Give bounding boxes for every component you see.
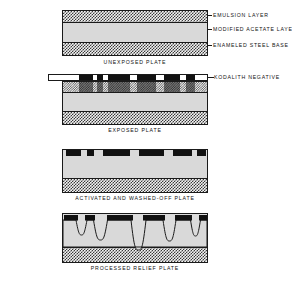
caption-unexposed-plate: UNEXPOSED PLATE bbox=[62, 59, 208, 65]
kodalith-negative-strip bbox=[48, 74, 208, 81]
panel-relief-plate: PROCESSED RELIEF PLATE bbox=[0, 205, 292, 284]
label-emulsion-layer: EMULSION LAYER bbox=[213, 12, 269, 18]
enameled-steel-base bbox=[63, 179, 207, 192]
relief-etch-profile bbox=[63, 214, 207, 262]
emulsion-block bbox=[87, 150, 94, 156]
panel-unexposed-plate: EMULSION LAYER MODIFIED ACETATE LAYER EN… bbox=[0, 0, 292, 70]
emulsion-block bbox=[143, 215, 165, 221]
label-kodalith-negative: KODALITH NEGATIVE bbox=[214, 74, 280, 80]
emulsion-block bbox=[103, 150, 130, 156]
exposed-emulsion-region bbox=[137, 82, 156, 92]
negative-opaque-segment bbox=[97, 75, 103, 80]
emulsion-block bbox=[64, 215, 78, 221]
negative-opaque-segment bbox=[79, 75, 94, 80]
exposed-emulsion-region bbox=[186, 82, 195, 92]
plate-relief bbox=[62, 213, 208, 263]
acetate-relief-surface bbox=[63, 220, 207, 250]
modified-acetate-layer bbox=[63, 93, 207, 111]
caption-exposed-plate: EXPOSED PLATE bbox=[62, 127, 208, 133]
negative-opaque-segment bbox=[164, 75, 180, 80]
leader-line-emulsion bbox=[208, 15, 212, 16]
panel-washed-off-plate: ACTIVATED AND WASHED-OFF PLATE bbox=[0, 135, 292, 205]
figure-canvas: EMULSION LAYER MODIFIED ACETATE LAYER EN… bbox=[0, 0, 292, 284]
exposed-emulsion-regions bbox=[63, 82, 207, 92]
exposed-emulsion-region bbox=[97, 82, 103, 92]
plate-washed-off bbox=[62, 149, 208, 193]
enameled-steel-base bbox=[63, 43, 207, 55]
emulsion-block bbox=[173, 150, 192, 156]
exposed-emulsion-region bbox=[79, 82, 94, 92]
negative-opaque-segment bbox=[108, 75, 130, 80]
caption-washed-off-plate: ACTIVATED AND WASHED-OFF PLATE bbox=[62, 195, 208, 201]
caption-relief-plate: PROCESSED RELIEF PLATE bbox=[62, 265, 208, 271]
negative-opaque-segment bbox=[137, 75, 156, 80]
plate-exposed bbox=[62, 81, 208, 125]
label-modified-acetate-layer: MODIFIED ACETATE LAYER bbox=[213, 26, 292, 32]
plate-unexposed bbox=[62, 10, 208, 56]
emulsion-block bbox=[197, 150, 206, 156]
leader-line-steel bbox=[208, 45, 212, 46]
emulsion-block bbox=[139, 150, 164, 156]
emulsion-layer bbox=[63, 11, 207, 22]
exposed-emulsion-region bbox=[164, 82, 180, 92]
emulsion-block bbox=[107, 215, 133, 221]
exposed-emulsion-region bbox=[108, 82, 130, 92]
label-enameled-steel-base: ENAMELED STEEL BASE bbox=[213, 42, 289, 48]
emulsion-block bbox=[199, 215, 207, 221]
emulsion-block bbox=[85, 215, 95, 221]
emulsion-block bbox=[66, 150, 81, 156]
negative-opaque-segment bbox=[186, 75, 195, 80]
emulsion-block bbox=[175, 215, 192, 221]
leader-line-acetate bbox=[208, 29, 212, 30]
enameled-steel-base bbox=[63, 112, 207, 124]
modified-acetate-layer bbox=[63, 23, 207, 42]
panel-exposed-plate: KODALITH NEGATIVE EXPOSED PLATE bbox=[0, 70, 292, 135]
